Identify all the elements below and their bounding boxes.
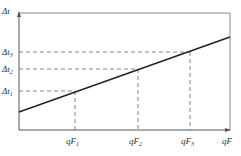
linear-line	[19, 37, 230, 112]
x-tick-label-qf1: qF1	[66, 136, 79, 147]
dashed-guides	[19, 52, 190, 130]
y-axis-arrow-icon	[17, 11, 21, 17]
y-tick-label-dt2: Δt2	[1, 64, 13, 75]
x-tick-label-qf3: qF3	[181, 136, 194, 147]
x-tick-label-qf2: qF2	[129, 136, 142, 147]
y-tick-label-dt3: Δt3	[1, 47, 13, 58]
linear-relationship-diagram: Δt Δt1 Δt2 Δt3 qF1 qF2 qF3 qF	[0, 0, 241, 156]
x-axis-label: qF	[222, 136, 233, 146]
y-axis-label: Δt	[1, 6, 10, 16]
y-tick-label-dt1: Δt1	[1, 86, 13, 97]
